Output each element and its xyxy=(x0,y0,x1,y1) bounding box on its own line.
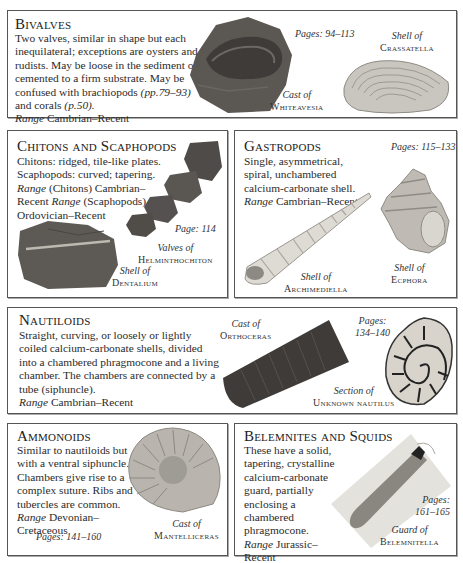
chitons-scaphopods-panel: Chitons and Scaphopods Chitons: ridged, … xyxy=(7,130,228,298)
belemnites-pages: Pages: 161–165 xyxy=(415,494,450,518)
caption-whiteavesia: Cast of Whiteavesia xyxy=(270,89,323,113)
nautiloids-panel: Nautiloids Straight, curving, or loosely… xyxy=(7,307,457,414)
gastropods-panel: Gastropods Single, asymmetrical, spiral,… xyxy=(234,130,457,298)
caption-dentalium: Shell of Dentalium xyxy=(112,265,158,289)
gastropods-pages: Pages: 115–133 xyxy=(391,141,456,153)
caption-belemnitella: Guard of Belemnitella xyxy=(380,524,439,548)
ammonoids-pages: Pages: 141–160 xyxy=(36,531,101,543)
ammonoids-panel: Ammonoids Similar to nautiloids but with… xyxy=(7,423,228,556)
caption-archimediella: Shell of Archimediella xyxy=(284,271,348,295)
ammonoids-title: Ammonoids xyxy=(17,429,91,444)
bivalves-pages: Pages: 94–113 xyxy=(295,28,355,40)
caption-helminthochiton: Valves of Helminthochiton xyxy=(138,242,213,266)
chitons-pages: Page: 114 xyxy=(175,223,216,235)
nautiloids-description: Straight, curving, or loosely or lightly… xyxy=(19,329,219,409)
mantelliceras-cast-image xyxy=(123,426,223,512)
bivalves-description: Two valves, similar in shape but each in… xyxy=(15,32,203,126)
nautilus-section-image xyxy=(384,316,454,408)
nautiloids-title: Nautiloids xyxy=(19,313,91,328)
caption-ecphora: Shell of Ecphora xyxy=(391,262,428,286)
crassatella-shell-image xyxy=(340,58,452,114)
gastropods-title: Gastropods xyxy=(244,139,321,154)
caption-unknown-nautilus: Section of Unknown nautilus xyxy=(313,385,394,409)
ecphora-shell-image xyxy=(379,169,451,255)
caption-mantelliceras: Cast of Mantelliceras xyxy=(154,518,219,542)
belemnites-squids-panel: Belemnites and Squids These have a solid… xyxy=(234,423,457,556)
helminthochiton-valves-image xyxy=(126,137,226,237)
belemnites-description: These have a solid, tapering, crystallin… xyxy=(244,444,339,563)
dentalium-shell-image xyxy=(18,221,118,289)
bivalves-title: Bivalves xyxy=(15,17,71,32)
bivalves-panel: Bivalves Two valves, similar in shape bu… xyxy=(7,10,457,118)
caption-crassatella: Shell of Crassatella xyxy=(380,30,434,54)
